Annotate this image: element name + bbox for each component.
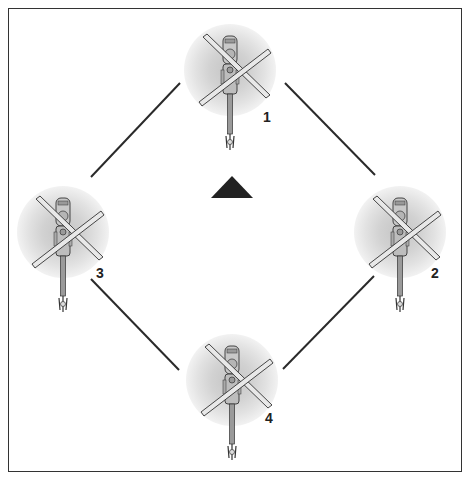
helicopter-icon-1 — [184, 24, 276, 150]
reference-triangle-icon — [211, 176, 253, 198]
aircraft-group — [17, 24, 446, 460]
connector-line-3-1 — [91, 83, 180, 177]
aircraft-label-1: 1 — [263, 110, 271, 124]
connector-line-4-2 — [283, 276, 374, 369]
aircraft-label-3: 3 — [96, 266, 104, 280]
connector-line-1-2 — [285, 83, 375, 175]
helicopter-icon-4 — [186, 334, 278, 460]
helicopter-icon-2 — [354, 186, 446, 312]
formation-connectors — [91, 83, 375, 370]
diagram-canvas — [0, 0, 469, 479]
helicopter-icon-3 — [17, 186, 109, 312]
aircraft-label-4: 4 — [265, 411, 273, 425]
connector-line-3-4 — [91, 279, 179, 370]
formation-diagram: 1 2 3 4 — [0, 0, 469, 479]
aircraft-label-2: 2 — [431, 266, 439, 280]
